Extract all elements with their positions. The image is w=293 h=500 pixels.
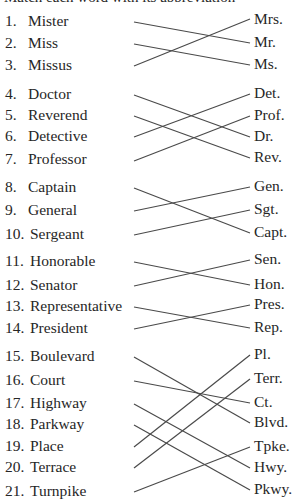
item-number: 11.	[5, 252, 30, 270]
connection-line	[134, 187, 250, 211]
abbreviation-label: Rev.	[254, 148, 282, 166]
word-label: Turnpike	[30, 482, 86, 499]
item-number: 21.	[5, 482, 30, 500]
word-item: 19.Place	[5, 437, 64, 455]
item-number: 17.	[5, 394, 30, 412]
connection-line	[134, 188, 250, 233]
connection-line	[134, 425, 250, 490]
item-number: 14.	[5, 319, 30, 337]
item-number: 3.	[5, 56, 28, 74]
word-label: Highway	[30, 394, 87, 411]
item-number: 1.	[5, 12, 28, 30]
word-label: Boulevard	[30, 347, 95, 364]
word-label: Sergeant	[30, 225, 84, 242]
word-item: 21.Turnpike	[5, 482, 86, 500]
connection-line	[134, 210, 250, 235]
item-number: 2.	[5, 34, 28, 52]
word-label: Professor	[28, 150, 87, 167]
abbreviation-label: Tpke.	[254, 437, 290, 455]
word-item: 2.Miss	[5, 34, 58, 52]
abbreviation-label: Sgt.	[254, 200, 279, 218]
word-label: Terrace	[30, 458, 76, 475]
item-number: 15.	[5, 347, 30, 365]
abbreviation-label: Ms.	[254, 55, 278, 73]
abbreviation-label: Gen.	[254, 177, 284, 195]
word-label: Senator	[30, 276, 77, 293]
word-item: 14.President	[5, 319, 88, 337]
item-number: 13.	[5, 297, 30, 315]
item-number: 8.	[5, 178, 28, 196]
word-item: 9.General	[5, 201, 77, 219]
item-number: 12.	[5, 276, 30, 294]
item-number: 6.	[5, 127, 28, 145]
word-item: 17.Highway	[5, 394, 87, 412]
abbreviation-label: Pres.	[254, 295, 285, 313]
word-item: 16.Court	[5, 371, 65, 389]
word-label: President	[30, 319, 88, 336]
item-number: 7.	[5, 150, 28, 168]
word-item: 11.Honorable	[5, 252, 95, 270]
word-item: 6.Detective	[5, 127, 87, 145]
abbreviation-label: Ct.	[254, 393, 273, 411]
word-item: 15.Boulevard	[5, 347, 95, 365]
abbreviation-label: Prof.	[254, 106, 285, 124]
word-label: Place	[30, 437, 64, 454]
abbreviation-label: Capt.	[254, 223, 287, 241]
abbreviation-label: Pl.	[254, 345, 271, 363]
word-label: Captain	[28, 178, 76, 195]
word-item: 3.Missus	[5, 56, 72, 74]
item-number: 4.	[5, 85, 28, 103]
word-item: 7.Professor	[5, 150, 87, 168]
word-label: Reverend	[28, 106, 87, 123]
connection-line	[134, 355, 250, 447]
item-number: 10.	[5, 225, 30, 243]
word-item: 10.Sergeant	[5, 225, 84, 243]
abbreviation-label: Sen.	[254, 250, 281, 268]
connection-line	[134, 19, 250, 66]
item-number: 9.	[5, 201, 28, 219]
connection-line	[134, 447, 250, 492]
word-label: Court	[30, 371, 65, 388]
word-item: 5.Reverend	[5, 106, 87, 124]
item-number: 5.	[5, 106, 28, 124]
word-label: Parkway	[30, 415, 84, 432]
abbreviation-label: Hwy.	[254, 458, 287, 476]
abbreviation-label: Dr.	[254, 127, 273, 145]
word-item: 4.Doctor	[5, 85, 71, 103]
abbreviation-label: Pkwy.	[254, 480, 292, 498]
abbreviation-label: Mr.	[254, 33, 276, 51]
word-item: 8.Captain	[5, 178, 76, 196]
item-number: 20.	[5, 458, 30, 476]
word-label: Honorable	[30, 252, 95, 269]
item-number: 16.	[5, 371, 30, 389]
abbreviation-label: Blvd.	[254, 413, 288, 431]
item-number: 19.	[5, 437, 30, 455]
abbreviation-label: Mrs.	[254, 10, 283, 28]
abbreviation-label: Rep.	[254, 318, 283, 336]
word-item: 20.Terrace	[5, 458, 76, 476]
abbreviation-label: Det.	[254, 84, 280, 102]
word-item: 1.Mister	[5, 12, 68, 30]
abbreviation-label: Terr.	[254, 369, 283, 387]
word-label: Doctor	[28, 85, 71, 102]
word-item: 13.Representative	[5, 297, 122, 315]
word-label: Detective	[28, 127, 87, 144]
word-item: 18.Parkway	[5, 415, 84, 433]
connection-line	[134, 44, 250, 65]
word-item: 12.Senator	[5, 276, 77, 294]
word-label: Miss	[28, 34, 58, 51]
word-label: Mister	[28, 12, 68, 29]
abbreviation-label: Hon.	[254, 275, 285, 293]
word-label: Representative	[30, 297, 122, 314]
connection-line	[134, 22, 250, 43]
word-label: General	[28, 201, 77, 218]
word-label: Missus	[28, 56, 72, 73]
item-number: 18.	[5, 415, 30, 433]
